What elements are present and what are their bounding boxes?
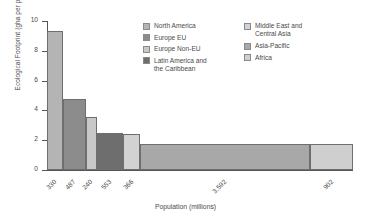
y-axis-tick-label: 0	[16, 166, 38, 173]
bar	[310, 144, 353, 170]
y-axis-tick-label: 10	[16, 17, 38, 24]
legend-item-label: Asia-Pacific	[255, 42, 289, 50]
legend-swatch-icon	[143, 34, 150, 41]
legend-swatch-icon	[244, 54, 251, 61]
bar	[86, 117, 97, 170]
bar	[123, 134, 140, 170]
x-axis-title: Population (millions)	[0, 203, 371, 210]
legend-item-label: Europe Non-EU	[154, 45, 201, 53]
legend-item: Europe EU	[143, 34, 241, 42]
legend-item: Europe Non-EU	[143, 45, 241, 53]
bar	[140, 144, 310, 170]
legend-swatch-icon	[143, 57, 150, 64]
y-axis-tick-label: 4	[16, 106, 38, 113]
y-axis-tick-label: 6	[16, 77, 38, 84]
x-axis-tick-label: 366	[111, 178, 134, 201]
legend-swatch-icon	[244, 23, 251, 30]
y-axis-tick	[42, 170, 47, 171]
ecological-footprint-chart: Ecological Footprint (gha per person) 02…	[0, 0, 371, 221]
legend-swatch-icon	[143, 23, 150, 30]
legend-right-column: Middle East and Central AsiaAsia-Pacific…	[244, 22, 364, 65]
legend-item: Latin America and the Caribbean	[143, 57, 241, 74]
legend-swatch-icon	[143, 46, 150, 53]
legend-item-label: North America	[154, 22, 196, 30]
y-axis-tick-label: 2	[16, 136, 38, 143]
legend-swatch-icon	[244, 43, 251, 50]
legend-item-label: Middle East and Central Asia	[255, 22, 302, 39]
x-axis-line	[47, 170, 353, 171]
x-axis-tick-label: 3,592	[205, 178, 228, 201]
legend-item-label: Latin America and the Caribbean	[154, 57, 207, 74]
legend-item: Africa	[244, 54, 364, 62]
bar	[97, 133, 123, 170]
legend-item: North America	[143, 22, 241, 30]
legend-item-label: Africa	[255, 54, 272, 62]
legend-item: Asia-Pacific	[244, 42, 364, 50]
legend-left-column: North AmericaEurope EUEurope Non-EULatin…	[143, 22, 241, 77]
bar	[47, 31, 63, 170]
legend-item-label: Europe EU	[154, 34, 186, 42]
legend-item: Middle East and Central Asia	[244, 22, 364, 39]
x-axis-tick-label: 902	[311, 178, 334, 201]
bar	[63, 99, 86, 170]
y-axis-tick-label: 8	[16, 47, 38, 54]
